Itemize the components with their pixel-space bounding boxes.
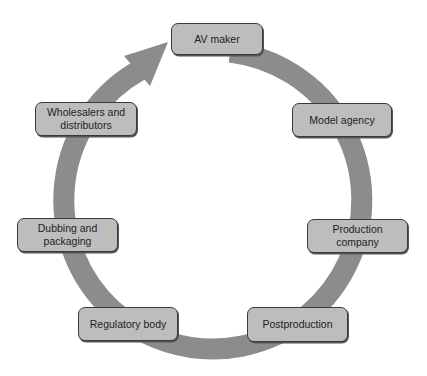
cycle-ring-arrow: [0, 0, 427, 376]
node-label: Wholesalers and distributors: [40, 106, 132, 132]
node-dubbing-packaging: Dubbing and packaging: [17, 218, 118, 252]
node-wholesalers-distributors: Wholesalers and distributors: [35, 102, 137, 136]
node-label: Dubbing and packaging: [22, 222, 113, 248]
node-postproduction: Postproduction: [247, 307, 348, 342]
cycle-diagram: AV maker Model agency Production company…: [0, 0, 427, 376]
node-regulatory-body: Regulatory body: [78, 307, 178, 341]
node-label: Regulatory body: [90, 318, 166, 331]
node-label: AV maker: [194, 33, 239, 46]
node-label: Model agency: [309, 114, 374, 127]
node-label: Postproduction: [262, 318, 332, 331]
node-label: Production company: [312, 223, 403, 249]
node-model-agency: Model agency: [292, 103, 392, 137]
node-av-maker: AV maker: [171, 23, 263, 55]
node-production-company: Production company: [307, 219, 408, 253]
